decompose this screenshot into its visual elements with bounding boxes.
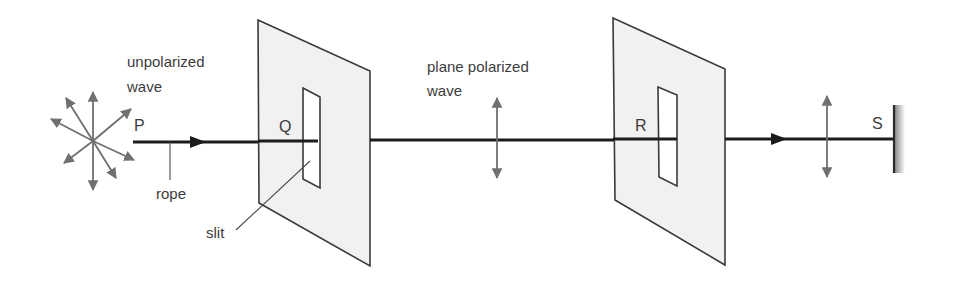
rope-direction-arrow-2-icon [771, 133, 787, 145]
point-q-label: Q [279, 118, 291, 135]
plane-polarized-label-line1: plane polarized [427, 58, 529, 75]
plane-polarized-label-line2: wave [426, 82, 462, 99]
unpolarized-label-line1: unpolarized [127, 53, 205, 70]
slit-label: slit [206, 224, 225, 241]
rope-direction-arrow-icon [190, 136, 206, 148]
polarizer-plate-2 [613, 18, 725, 265]
polarizer-plate-1 [258, 20, 370, 266]
point-s-label: S [872, 115, 883, 132]
point-p-label: P [134, 117, 145, 134]
fixed-wall-icon [894, 105, 905, 173]
rope-label: rope [156, 185, 186, 202]
polarization-diagram: unpolarized wave P rope Q slit plane pol… [0, 0, 961, 289]
unpolarized-source-icon [51, 92, 134, 190]
unpolarized-label-line2: wave [126, 78, 162, 95]
point-r-label: R [635, 117, 647, 134]
